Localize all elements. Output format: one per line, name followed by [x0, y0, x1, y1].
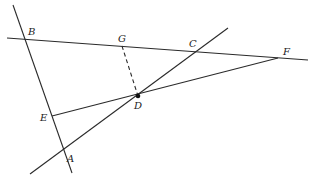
segment-ef: [52, 58, 278, 116]
label-a: A: [66, 153, 74, 164]
label-e: E: [39, 112, 48, 123]
segment-gd-dashed: [122, 46, 138, 96]
label-d: D: [133, 100, 142, 111]
label-c: C: [189, 38, 197, 49]
point-d-dot: [136, 94, 141, 99]
label-g: G: [118, 33, 126, 44]
label-b: B: [27, 26, 35, 37]
line-bf: [7, 38, 308, 60]
label-f: F: [282, 46, 291, 57]
geometry-diagram: A B C D E F G: [0, 0, 317, 184]
line-ba: [13, 5, 72, 173]
line-ac: [30, 28, 228, 174]
